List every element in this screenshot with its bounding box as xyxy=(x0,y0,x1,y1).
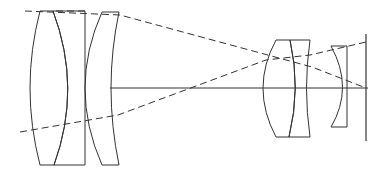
front-doublet-biconvex-lens xyxy=(30,11,68,165)
field-flattener-lens xyxy=(331,46,347,127)
ray-upper-marginal xyxy=(25,11,366,88)
front-doublet-plano-lens xyxy=(53,11,85,165)
ray-lower-marginal xyxy=(20,42,366,132)
optical-lens-diagram xyxy=(0,0,384,173)
